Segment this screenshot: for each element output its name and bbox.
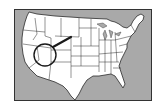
us-map bbox=[15, 10, 152, 101]
map-frame bbox=[14, 9, 152, 101]
